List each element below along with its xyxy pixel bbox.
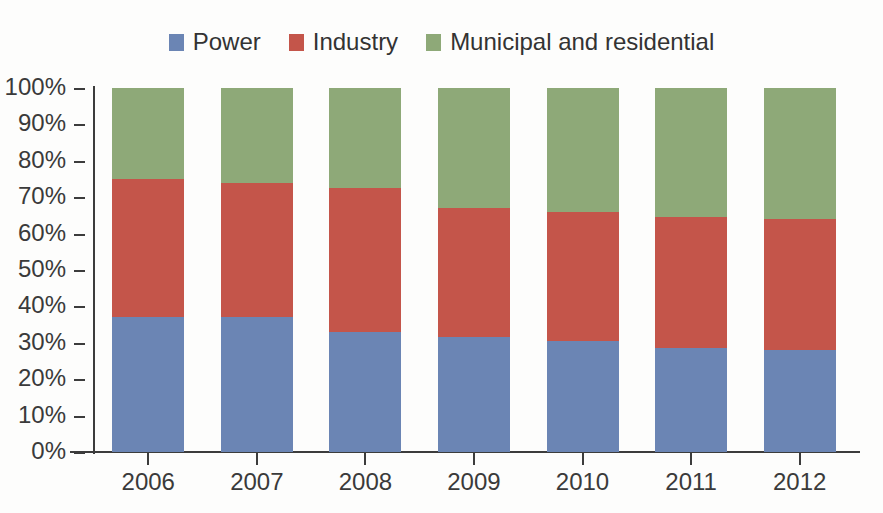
y-axis-tick-label: 100% xyxy=(5,73,66,101)
x-axis-tick xyxy=(204,452,310,466)
y-axis-tick-mark xyxy=(74,379,85,381)
y-axis-tick-mark xyxy=(74,234,85,236)
bar-segment-power[interactable] xyxy=(221,317,293,452)
x-axis-labels: 2006200720082009201020112012 xyxy=(94,466,854,502)
x-axis-label: 2012 xyxy=(747,466,853,502)
y-axis-tick-label: 80% xyxy=(18,146,66,174)
x-axis-tick-mark xyxy=(799,452,801,465)
bar-segment-industry[interactable] xyxy=(221,183,293,318)
bar-segment-industry[interactable] xyxy=(329,188,401,332)
bar-segment-municipal-and-residential[interactable] xyxy=(438,88,510,208)
bar-segment-power[interactable] xyxy=(438,337,510,452)
y-axis-tick-mark xyxy=(74,88,85,90)
x-axis-label: 2007 xyxy=(204,466,310,502)
bar-group-2006[interactable] xyxy=(95,88,201,452)
y-axis-tick-mark xyxy=(74,343,85,345)
legend-swatch-municipal xyxy=(426,34,441,51)
y-axis-tick-label: 50% xyxy=(18,255,66,283)
x-axis-ticks xyxy=(94,452,854,466)
bar-segment-power[interactable] xyxy=(112,317,184,452)
x-axis-label: 2009 xyxy=(421,466,527,502)
bar-segment-industry[interactable] xyxy=(438,208,510,337)
bar-stack xyxy=(655,88,727,452)
legend-swatch-power xyxy=(169,34,184,51)
y-axis-tick-mark xyxy=(74,416,85,418)
y-axis-tick-label: 60% xyxy=(18,219,66,247)
bar-series-container xyxy=(94,88,854,452)
x-axis-tick xyxy=(638,452,744,466)
bar-segment-industry[interactable] xyxy=(655,217,727,348)
bar-segment-power[interactable] xyxy=(547,341,619,452)
bar-segment-municipal-and-residential[interactable] xyxy=(112,88,184,179)
y-axis-tick-mark xyxy=(74,306,85,308)
legend-label-municipal: Municipal and residential xyxy=(450,30,714,54)
x-axis-label: 2006 xyxy=(95,466,201,502)
x-axis-tick xyxy=(95,452,201,466)
bar-stack xyxy=(438,88,510,452)
bar-segment-power[interactable] xyxy=(764,350,836,452)
y-axis-tick-label: 40% xyxy=(18,291,66,319)
bar-stack xyxy=(764,88,836,452)
bar-segment-municipal-and-residential[interactable] xyxy=(329,88,401,188)
x-axis-tick xyxy=(421,452,527,466)
bar-segment-power[interactable] xyxy=(655,348,727,452)
bar-group-2012[interactable] xyxy=(747,88,853,452)
legend-swatch-industry xyxy=(289,34,304,51)
y-axis-tick-mark xyxy=(74,161,85,163)
x-axis-tick-mark xyxy=(147,452,149,465)
legend-item-power[interactable]: Power xyxy=(169,30,261,54)
bar-segment-municipal-and-residential[interactable] xyxy=(547,88,619,212)
bar-stack xyxy=(112,88,184,452)
x-axis-tick xyxy=(530,452,636,466)
bar-segment-power[interactable] xyxy=(329,332,401,452)
bar-segment-industry[interactable] xyxy=(112,179,184,317)
bar-segment-industry[interactable] xyxy=(764,219,836,350)
legend-item-industry[interactable]: Industry xyxy=(289,30,398,54)
y-axis-tick-label: 10% xyxy=(18,401,66,429)
x-axis-label: 2008 xyxy=(312,466,418,502)
x-axis-label: 2011 xyxy=(638,466,744,502)
x-axis-tick-mark xyxy=(582,452,584,465)
x-axis-label: 2010 xyxy=(530,466,636,502)
legend-label-power: Power xyxy=(193,30,261,54)
bar-group-2008[interactable] xyxy=(312,88,418,452)
y-axis-tick-mark xyxy=(74,197,85,199)
x-axis-tick xyxy=(747,452,853,466)
legend-label-industry: Industry xyxy=(313,30,398,54)
y-axis-tick-label: 0% xyxy=(31,437,66,465)
x-axis-tick-mark xyxy=(690,452,692,465)
y-axis-tick-mark xyxy=(74,452,85,454)
bar-stack xyxy=(221,88,293,452)
y-axis-tick-label: 20% xyxy=(18,364,66,392)
y-axis-tick-label: 30% xyxy=(18,328,66,356)
x-axis-tick-mark xyxy=(473,452,475,465)
y-axis-tick-label: 90% xyxy=(18,109,66,137)
chart-legend: Power Industry Municipal and residential xyxy=(0,22,883,62)
stacked-bar-chart: Power Industry Municipal and residential… xyxy=(0,0,883,513)
y-axis-tick-mark xyxy=(74,124,85,126)
bar-segment-industry[interactable] xyxy=(547,212,619,341)
x-axis-tick xyxy=(312,452,418,466)
y-axis-tick-mark xyxy=(74,270,85,272)
bar-stack xyxy=(547,88,619,452)
y-axis-tick-label: 70% xyxy=(18,182,66,210)
bar-segment-municipal-and-residential[interactable] xyxy=(764,88,836,219)
bar-stack xyxy=(329,88,401,452)
bar-group-2007[interactable] xyxy=(204,88,310,452)
x-axis-tick-mark xyxy=(364,452,366,465)
bar-segment-municipal-and-residential[interactable] xyxy=(655,88,727,217)
bar-group-2009[interactable] xyxy=(421,88,527,452)
bar-segment-municipal-and-residential[interactable] xyxy=(221,88,293,183)
bar-group-2011[interactable] xyxy=(638,88,744,452)
x-axis-tick-mark xyxy=(256,452,258,465)
legend-item-municipal[interactable]: Municipal and residential xyxy=(426,30,714,54)
bar-group-2010[interactable] xyxy=(530,88,636,452)
